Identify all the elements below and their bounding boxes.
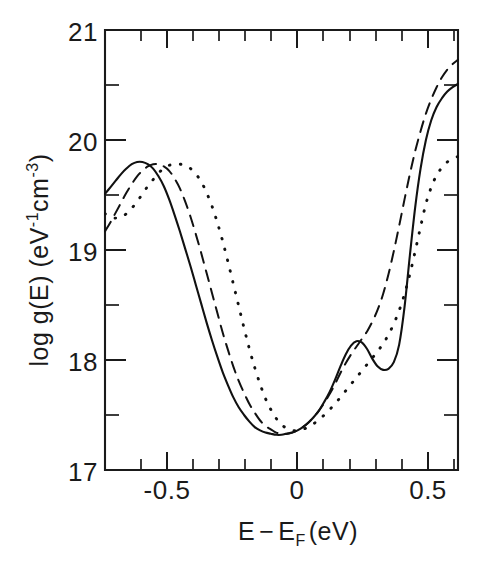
y-title-sup1: -1 <box>24 212 41 227</box>
y-title-close: ) <box>25 153 53 162</box>
x-title-ef-base: E <box>278 517 295 545</box>
series-solid <box>105 84 458 435</box>
svg-text:E−EF(eV): E−EF(eV) <box>238 517 358 549</box>
x-axis-title: E−EF(eV) <box>238 517 358 549</box>
y-axis-title: log g(E) (eV-1cm-3) <box>24 153 53 366</box>
x-tick-label-neg05: -0.5 <box>144 475 191 505</box>
y-title-mid: cm <box>25 178 53 212</box>
y-tick-label-18: 18 <box>68 347 98 377</box>
x-title-minus: − <box>259 517 274 545</box>
y-tick-label-19: 19 <box>68 237 98 267</box>
plot-frame <box>105 30 458 470</box>
x-title-units: (eV) <box>309 517 358 545</box>
y-title-lead: log g(E) (eV <box>25 227 53 366</box>
x-title-ef-sub: F <box>295 532 305 549</box>
y-axis-ticks <box>105 30 126 470</box>
y-tick-labels: 21 20 19 18 17 <box>68 17 98 487</box>
x-tick-label-0: 0 <box>290 475 305 505</box>
x-axis-ticks <box>141 452 454 470</box>
x-tick-label-05: 0.5 <box>409 475 447 505</box>
y-title-sup2: -3 <box>24 162 41 177</box>
figure-container: 21 20 19 18 17 -0.5 0 0.5 E−EF(eV) log g… <box>0 0 477 562</box>
y-axis-ticks-right <box>437 85 458 415</box>
x-tick-labels: -0.5 0 0.5 <box>144 475 447 505</box>
y-tick-label-17: 17 <box>68 457 98 487</box>
svg-text:log g(E) (eV-1cm-3): log g(E) (eV-1cm-3) <box>24 153 53 366</box>
y-tick-label-21: 21 <box>68 17 98 47</box>
data-curves <box>105 60 458 435</box>
density-of-states-chart: 21 20 19 18 17 -0.5 0 0.5 E−EF(eV) log g… <box>0 0 477 562</box>
x-title-lead: E <box>238 517 255 545</box>
x-axis-ticks-top <box>141 30 454 48</box>
y-tick-label-20: 20 <box>68 127 98 157</box>
series-dashed <box>105 60 458 434</box>
